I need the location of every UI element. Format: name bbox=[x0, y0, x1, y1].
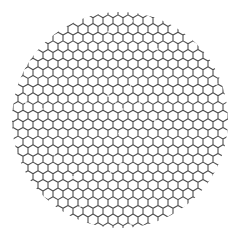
honeycomb-figure bbox=[0, 0, 240, 240]
honeycomb-mesh-svg bbox=[0, 0, 240, 240]
